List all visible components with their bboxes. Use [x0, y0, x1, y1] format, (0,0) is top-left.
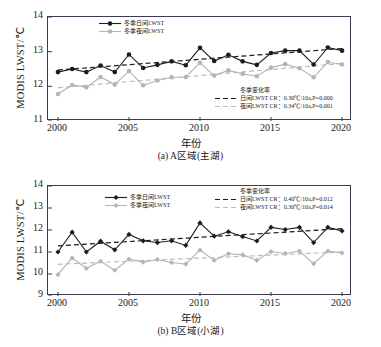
data-point-marker	[169, 75, 174, 80]
data-point-marker	[112, 82, 117, 87]
data-point-marker	[254, 258, 259, 263]
data-point-marker	[311, 75, 316, 80]
data-point-marker	[183, 75, 188, 80]
data-point-marker	[198, 60, 203, 65]
data-point-marker	[155, 240, 160, 245]
trend-legend-label: 日间LWST CR：0.40℃/10a,P=0.012	[240, 195, 333, 203]
trend-legend-key-icon	[215, 204, 237, 211]
data-point-marker	[268, 249, 273, 254]
data-point-marker	[339, 250, 344, 255]
data-point-marker	[183, 63, 188, 68]
trend-legend-key-icon	[215, 103, 237, 110]
x-axis-tick-label: 2010	[179, 122, 219, 133]
x-axis-tick-label: 2015	[250, 297, 290, 308]
trend-legend-item: 夜间LWST CR：0.34℃/10a,P=0.001	[215, 102, 333, 110]
panel-caption: (b) B区域(小湖)	[0, 323, 381, 337]
legend-key-icon	[99, 28, 121, 35]
trend-legend-key-icon	[215, 95, 237, 102]
data-point-marker	[326, 60, 331, 65]
data-point-marker	[269, 65, 274, 70]
legend-item: 冬季日间LWST	[99, 19, 164, 27]
data-point-marker	[283, 62, 288, 67]
x-axis-tick-label: 2000	[37, 122, 77, 133]
y-axis-label: MODIS LWST/℃	[14, 16, 26, 120]
data-point-marker	[56, 92, 61, 97]
legend-item: 冬季夜间LWST	[99, 27, 164, 35]
trend-legend-item: 夜间LWST CR：0.30℃/10a,P=0.014	[215, 203, 333, 211]
figure-lwst-winter-trends: 1112131420002005201020152020MODIS LWST/℃…	[0, 0, 381, 347]
trend-legend-title: 冬季变化率	[215, 187, 333, 195]
data-point-marker	[70, 67, 75, 72]
data-point-marker	[127, 52, 132, 57]
trend-legend-item: 日间LWST CR：0.40℃/10a,P=0.012	[215, 195, 333, 203]
panel-caption: (a) A区域(主湖)	[0, 148, 381, 162]
x-axis-tick-label: 2020	[321, 122, 361, 133]
data-point-marker	[56, 70, 61, 75]
trend-legend: 冬季变化率日间LWST CR：0.30℃/10a,P=0.000夜间LWST C…	[215, 86, 333, 111]
data-point-marker	[340, 62, 345, 67]
y-axis-label: MODIS LWST/℃	[14, 185, 26, 295]
legend-key-icon	[105, 202, 127, 209]
data-point-marker	[127, 69, 132, 74]
x-axis-tick-label: 2005	[108, 122, 148, 133]
data-point-marker	[84, 85, 89, 90]
data-point-marker	[169, 59, 174, 64]
chart-panel-b: 9101112131420002005201020152020MODIS LWS…	[0, 173, 381, 346]
data-point-marker	[240, 72, 245, 77]
x-axis-tick-label: 2010	[179, 297, 219, 308]
data-point-marker	[212, 59, 217, 64]
data-point-marker	[169, 260, 174, 265]
chart-panel-a: 1112131420002005201020152020MODIS LWST/℃…	[0, 0, 381, 173]
legend-item: 冬季日间LWST	[105, 193, 170, 201]
trend-legend-item: 日间LWST CR：0.30℃/10a,P=0.000	[215, 94, 333, 102]
series-legend: 冬季日间LWST冬季夜间LWST	[105, 193, 170, 209]
data-point-marker	[240, 59, 245, 64]
data-point-marker	[98, 63, 103, 68]
data-point-marker	[70, 83, 75, 88]
trend-legend-key-icon	[215, 196, 237, 203]
data-point-marker	[112, 70, 117, 75]
data-point-marker	[283, 251, 288, 256]
data-point-marker	[255, 63, 260, 68]
data-point-marker	[155, 63, 160, 68]
legend-key-icon	[105, 194, 127, 201]
data-point-marker	[141, 238, 146, 243]
data-point-marker	[212, 73, 217, 78]
data-point-marker	[141, 66, 146, 71]
data-point-marker	[326, 45, 331, 50]
trend-legend-label: 夜间LWST CR：0.30℃/10a,P=0.014	[240, 203, 333, 211]
trend-legend-title: 冬季变化率	[215, 86, 333, 94]
data-point-marker	[340, 48, 345, 53]
data-point-marker	[226, 229, 231, 234]
x-axis-tick-label: 2020	[321, 297, 361, 308]
legend-item: 冬季夜间LWST	[105, 201, 170, 209]
legend-label: 冬季夜间LWST	[130, 201, 170, 209]
data-point-marker	[155, 78, 160, 83]
data-point-marker	[198, 46, 203, 51]
data-point-marker	[226, 52, 231, 57]
data-point-marker	[297, 48, 302, 53]
trend-legend: 冬季变化率日间LWST CR：0.40℃/10a,P=0.012夜间LWST C…	[215, 187, 333, 212]
legend-label: 冬季夜间LWST	[124, 27, 164, 35]
trend-legend-label: 日间LWST CR：0.30℃/10a,P=0.000	[240, 94, 333, 102]
data-point-marker	[269, 51, 274, 56]
data-point-marker	[297, 66, 302, 71]
data-point-marker	[183, 243, 188, 248]
series-legend: 冬季日间LWST冬季夜间LWST	[99, 19, 164, 35]
legend-key-icon	[99, 20, 121, 27]
data-point-marker	[226, 251, 231, 256]
x-axis-tick-label: 2005	[108, 297, 148, 308]
data-point-marker	[311, 62, 316, 67]
data-point-marker	[155, 257, 160, 262]
trend-legend-label: 夜间LWST CR：0.34℃/10a,P=0.001	[240, 102, 333, 110]
data-point-marker	[84, 70, 89, 75]
data-point-marker	[283, 227, 288, 232]
data-point-marker	[141, 83, 146, 88]
x-axis-tick-label: 2000	[37, 297, 77, 308]
data-point-marker	[283, 48, 288, 53]
x-axis-tick-label: 2015	[250, 122, 290, 133]
data-point-marker	[255, 74, 260, 79]
legend-label: 冬季日间LWST	[124, 19, 164, 27]
legend-label: 冬季日间LWST	[130, 193, 170, 201]
data-point-marker	[98, 75, 103, 80]
